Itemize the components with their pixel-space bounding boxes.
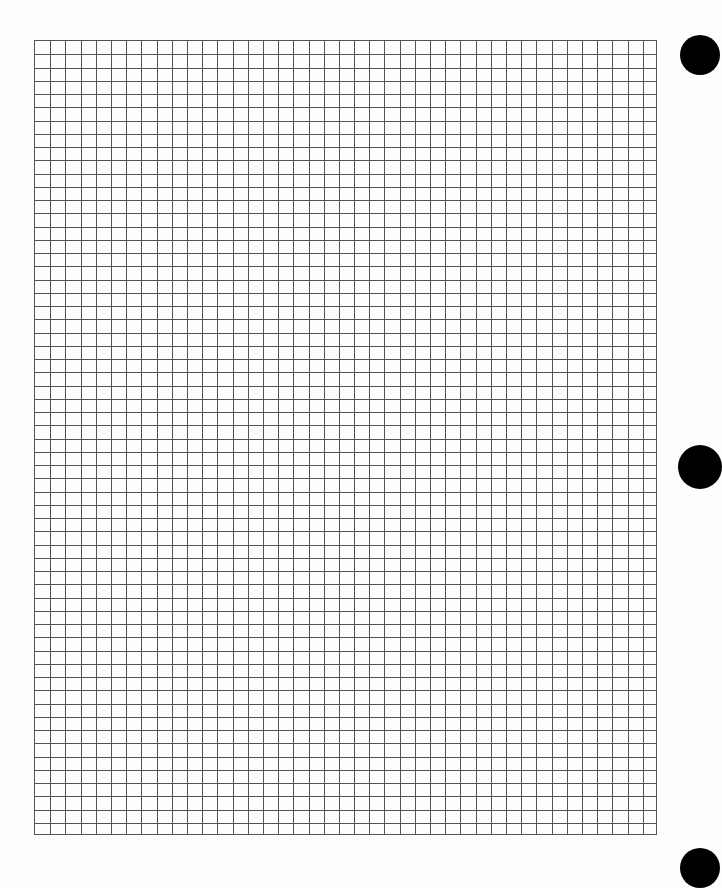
graph-paper-grid	[34, 40, 657, 835]
punch-hole-icon	[680, 35, 720, 75]
punch-hole-icon	[680, 848, 720, 888]
punch-hole-icon	[678, 445, 722, 489]
